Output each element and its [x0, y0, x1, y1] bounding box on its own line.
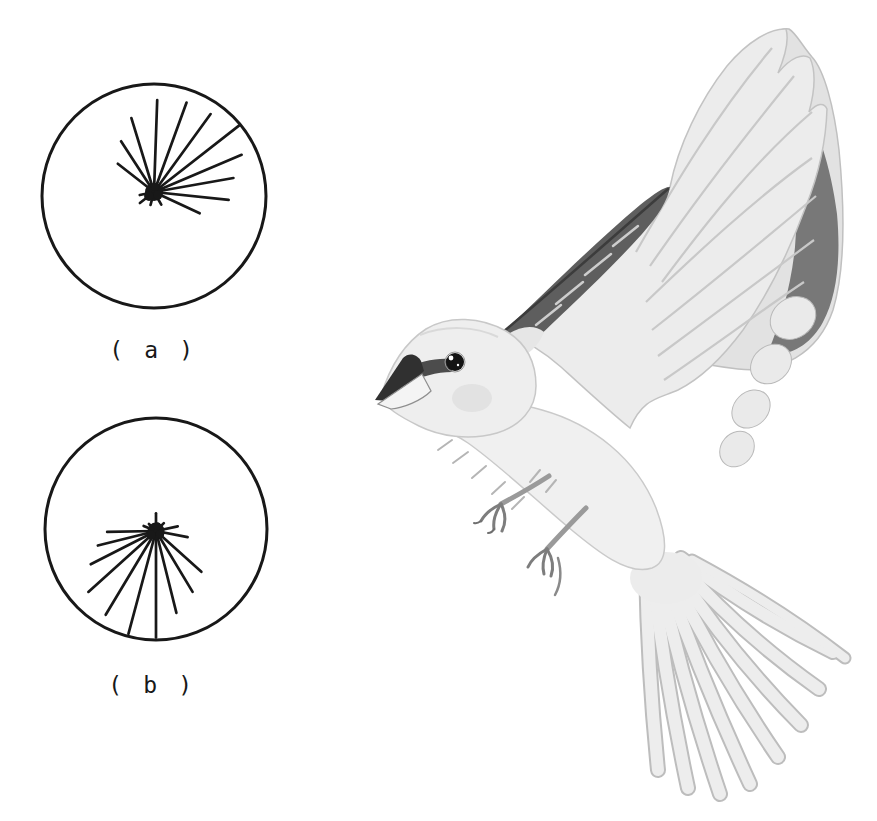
- panel-b-label: ( b ): [108, 672, 196, 698]
- bird-tail: [630, 552, 845, 794]
- bird-illustration: [375, 29, 845, 794]
- figure-page: ( a ) ( b ): [0, 0, 877, 821]
- panel-a-label: ( a ): [109, 337, 197, 363]
- orientation-diagram-a: [42, 84, 266, 308]
- bird-leg-front: [474, 476, 549, 533]
- bird-eye: [445, 352, 465, 372]
- figure-canvas: ( a ) ( b ): [0, 0, 877, 821]
- orientation-diagram-b: [45, 418, 267, 640]
- bird-cheek-shading: [452, 384, 492, 412]
